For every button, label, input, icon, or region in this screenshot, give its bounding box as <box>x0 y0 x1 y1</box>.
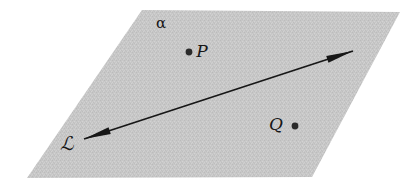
figure-canvas <box>0 0 417 188</box>
plane-alpha-grain-overlay <box>27 10 400 178</box>
point-Q-dot <box>292 123 299 130</box>
geometry-figure: α P Q ℒ <box>0 0 417 188</box>
point-P-dot <box>186 49 193 56</box>
plane-shape-group <box>27 10 400 178</box>
